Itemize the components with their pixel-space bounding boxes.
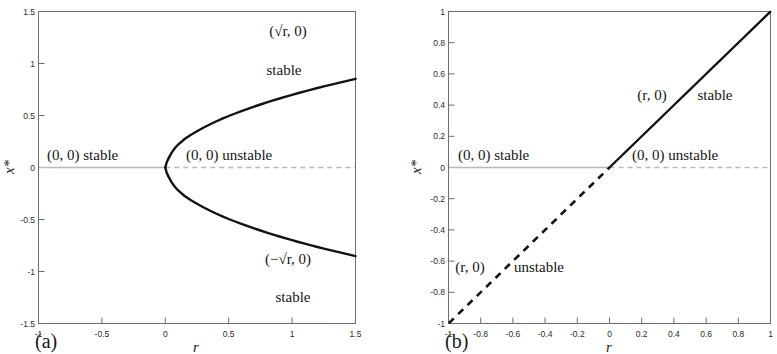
y-tick-label: 1 bbox=[30, 59, 35, 69]
x-axis-title-b: r bbox=[606, 339, 612, 354]
x-tick-label: -0.5 bbox=[95, 329, 110, 339]
panel-b-transcritical-bifurcation: 1 0.8 0.6 0.4 0.2 0 -0.2 -0.4 -0.6 -0. bbox=[388, 0, 777, 354]
panel-a-pitchfork-bifurcation: 1.5 1 0.5 0 -0.5 -1 -1.5 -1 -0.5 bbox=[0, 0, 388, 354]
x-axis-ticks-b: -1 -0.8 -0.6 -0.4 -0.2 0 0.2 0.4 0.6 0 bbox=[445, 318, 773, 340]
y-tick-label: -0.5 bbox=[20, 215, 35, 225]
panel-b-svg: 1 0.8 0.6 0.4 0.2 0 -0.2 -0.4 -0.6 -0. bbox=[388, 0, 777, 354]
y-tick-label: 0.5 bbox=[23, 111, 35, 121]
y-tick-label: 1.5 bbox=[23, 7, 35, 17]
annotation-origin-stable-b: (0, 0) stable bbox=[458, 147, 530, 164]
annotation-lower-branch-stability-a: stable bbox=[276, 289, 311, 305]
x-tick-label: 0.8 bbox=[732, 329, 744, 339]
annotation-lower-branch-stability-b: unstable bbox=[514, 259, 564, 275]
annotation-upper-branch-stability-b: stable bbox=[698, 87, 733, 103]
x-tick-label: 1.5 bbox=[350, 329, 362, 339]
diagonal-branch-stable-b bbox=[610, 12, 771, 168]
x-tick-label: 0.2 bbox=[636, 329, 648, 339]
x-tick-label: 0 bbox=[607, 329, 612, 339]
annotation-origin-stable-a: (0, 0) stable bbox=[47, 147, 119, 164]
y-tick-label: -1 bbox=[437, 319, 445, 329]
y-tick-label: -0.8 bbox=[430, 287, 445, 297]
y-axis-title-b: x* bbox=[408, 159, 424, 175]
y-tick-label: -0.2 bbox=[430, 194, 445, 204]
annotation-lower-branch-point-b: (r, 0) bbox=[455, 259, 484, 276]
x-tick-label: -0.2 bbox=[570, 329, 585, 339]
annotation-upper-branch-point-a: (√r, 0) bbox=[269, 23, 307, 40]
x-tick-label: 0.6 bbox=[700, 329, 712, 339]
x-tick-label: -0.8 bbox=[473, 329, 488, 339]
lower-parabola-branch-a bbox=[165, 168, 355, 257]
bifurcation-diagram-figure: 1.5 1 0.5 0 -0.5 -1 -1.5 -1 -0.5 bbox=[0, 0, 777, 354]
y-tick-label: 1 bbox=[440, 7, 445, 17]
annotation-lower-branch-point-a: (−√r, 0) bbox=[265, 251, 311, 268]
panel-label-b: (b) bbox=[445, 330, 468, 353]
x-tick-label: 0.5 bbox=[223, 329, 235, 339]
x-axis-title-a: r bbox=[193, 339, 199, 354]
annotation-origin-unstable-b: (0, 0) unstable bbox=[632, 147, 719, 164]
y-tick-label: 0.8 bbox=[433, 38, 445, 48]
y-axis-title-a: x* bbox=[1, 159, 17, 175]
y-tick-label: 0 bbox=[440, 163, 445, 173]
annotation-upper-branch-point-b: (r, 0) bbox=[637, 87, 666, 104]
y-tick-label: -1 bbox=[27, 267, 35, 277]
y-tick-label: 0.4 bbox=[433, 100, 445, 110]
y-tick-label: 0 bbox=[30, 163, 35, 173]
y-tick-label: -1.5 bbox=[20, 319, 35, 329]
x-tick-label: 0.4 bbox=[668, 329, 680, 339]
y-tick-label: -0.6 bbox=[430, 256, 445, 266]
x-tick-label: -0.4 bbox=[538, 329, 553, 339]
y-tick-label: 0.6 bbox=[433, 69, 445, 79]
panel-label-a: (a) bbox=[35, 330, 57, 353]
diagonal-branch-unstable-b bbox=[449, 168, 610, 324]
panel-a-svg: 1.5 1 0.5 0 -0.5 -1 -1.5 -1 -0.5 bbox=[0, 0, 388, 354]
y-tick-label: 0.2 bbox=[433, 131, 445, 141]
x-tick-label: 1 bbox=[768, 329, 773, 339]
x-axis-ticks-a: -1 -0.5 0 0.5 1 1.5 bbox=[35, 318, 362, 340]
annotation-upper-branch-stability-a: stable bbox=[267, 62, 302, 78]
x-tick-label: 0 bbox=[163, 329, 168, 339]
x-tick-label: 1 bbox=[290, 329, 295, 339]
x-tick-label: -0.6 bbox=[506, 329, 521, 339]
y-tick-label: -0.4 bbox=[430, 225, 445, 235]
annotation-origin-unstable-a: (0, 0) unstable bbox=[186, 147, 273, 164]
